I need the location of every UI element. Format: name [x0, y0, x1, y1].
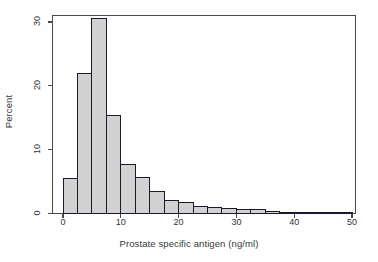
- bar-series: [63, 19, 352, 214]
- x-tick-label: 30: [231, 217, 241, 227]
- y-tick-label: 0: [32, 203, 42, 223]
- histogram-plot: [0, 0, 378, 262]
- histogram-bar: [294, 212, 308, 213]
- histogram-bar: [309, 212, 323, 213]
- histogram-bar: [251, 210, 265, 214]
- histogram-bar: [135, 178, 149, 214]
- histogram-bar: [323, 213, 337, 214]
- histogram-bar: [150, 192, 164, 214]
- x-tick-label: 10: [116, 217, 126, 227]
- y-tick-label: 30: [32, 11, 42, 31]
- y-tick-label: 10: [32, 139, 42, 159]
- x-tick-label: 40: [289, 217, 299, 227]
- histogram-bar: [265, 212, 279, 214]
- histogram-figure: Prostate specific antigen (ng/ml) Percen…: [0, 0, 378, 262]
- x-tick-label: 0: [60, 217, 65, 227]
- histogram-bar: [222, 208, 236, 213]
- y-axis-title: Percent: [3, 82, 14, 142]
- x-tick-label: 50: [347, 217, 357, 227]
- histogram-bar: [77, 73, 91, 213]
- histogram-bar: [236, 209, 250, 213]
- histogram-bar: [106, 116, 120, 214]
- x-axis-title: Prostate specific antigen (ng/ml): [0, 238, 378, 249]
- histogram-bar: [164, 200, 178, 213]
- histogram-bar: [63, 178, 77, 213]
- histogram-bar: [179, 202, 193, 213]
- x-tick-label: 20: [174, 217, 184, 227]
- histogram-bar: [92, 19, 106, 214]
- histogram-bar: [338, 213, 352, 214]
- histogram-bar: [280, 212, 294, 213]
- y-tick-label: 20: [32, 75, 42, 95]
- histogram-bar: [208, 207, 222, 213]
- histogram-bar: [193, 206, 207, 213]
- histogram-bar: [121, 164, 135, 213]
